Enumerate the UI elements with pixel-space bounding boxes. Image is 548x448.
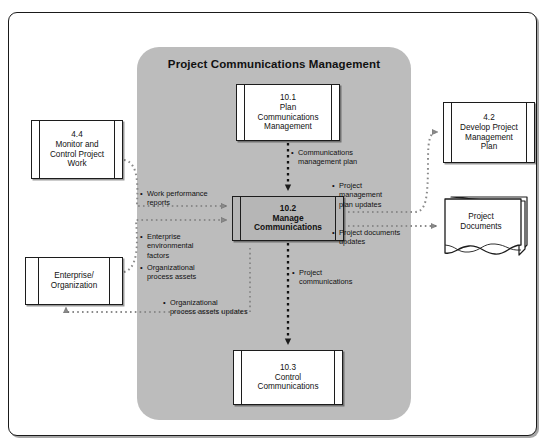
flow-eef-line2: environmental [140, 241, 193, 250]
process-10-3-line1: Control [275, 373, 301, 382]
process-10-3-label: 10.3 Control Communications [249, 363, 328, 392]
box-rail-left [38, 258, 39, 304]
flow-label-communications-management-plan: Communications management plan [291, 148, 357, 167]
process-4-2-line2: Management [465, 133, 513, 142]
project-documents-line2: Documents [460, 222, 501, 231]
box-rail-right [114, 121, 115, 178]
diagram-canvas: Project Communications Management [0, 0, 548, 448]
box-rail-right [109, 258, 110, 304]
process-10-2-line1: Manage [272, 213, 303, 223]
process-4-4-label: 4.4 Monitor and Control Project Work [41, 130, 113, 168]
flow-opau-line1: Organizational [163, 298, 248, 307]
enterprise-line1: Enterprise/ [54, 271, 94, 280]
process-10-1-line3: Management [264, 122, 312, 131]
process-4-4-line1: Monitor and [55, 140, 98, 149]
flow-opau-line2: process assets updates [163, 307, 248, 316]
flow-cmp-line2: management plan [291, 157, 357, 166]
box-rail-left [39, 121, 40, 178]
box-rail-left [241, 351, 242, 404]
process-4-4-line3: Work [68, 159, 87, 168]
flow-pc-line1: Project [292, 268, 352, 277]
process-4-2-line3: Plan [481, 142, 497, 151]
flow-pmpu-line1: Project [332, 181, 382, 190]
enterprise-line2: Organization [51, 281, 97, 290]
project-documents-line1: Project [468, 212, 493, 221]
flow-opa-line1: Organizational [140, 263, 196, 272]
flow-label-enterprise-environmental-factors: Enterprise environmental factors [140, 232, 193, 260]
process-10-2-label: 10.2 Manage Communications [245, 204, 331, 233]
process-10-3-line2: Communications [258, 382, 319, 391]
process-4-2-id: 4.2 [483, 113, 494, 122]
process-4-2-label: 4.2 Develop Project Management Plan [451, 113, 527, 151]
process-4-2-line1: Develop Project [460, 123, 518, 132]
process-10-1-line1: Plan [280, 103, 296, 112]
process-box-10-1[interactable]: 10.1 Plan Communications Management [236, 84, 340, 141]
project-documents-stack[interactable]: Project Documents [441, 193, 533, 261]
process-10-1-id: 10.1 [280, 93, 296, 102]
process-10-2-line2: Communications [254, 222, 322, 232]
flow-pmpu-line3: plan updates [332, 200, 382, 209]
flow-opa-line2: process assets [140, 272, 196, 281]
process-box-10-3[interactable]: 10.3 Control Communications [233, 350, 343, 405]
flow-pdu-line1: Project documents [332, 228, 400, 237]
flow-label-project-communications: Project communications [292, 268, 352, 287]
process-box-4-4[interactable]: 4.4 Monitor and Control Project Work [31, 120, 123, 179]
box-rail-left [244, 85, 245, 140]
enterprise-organization-label: Enterprise/ Organization [42, 271, 106, 290]
box-rail-right [331, 85, 332, 140]
flow-pmpu-line2: management [332, 190, 382, 199]
box-rail-left [240, 197, 241, 240]
flow-label-project-management-plan-updates: Project management plan updates [332, 181, 382, 209]
box-rail-right [334, 351, 335, 404]
process-10-2-id: 10.2 [280, 203, 296, 213]
flow-eef-line3: factors [140, 251, 193, 260]
panel-title: Project Communications Management [137, 58, 411, 70]
flow-label-project-documents-updates: Project documents updates [332, 228, 400, 247]
entity-box-enterprise-organization[interactable]: Enterprise/ Organization [25, 257, 123, 305]
process-4-4-line2: Control Project [50, 150, 104, 159]
process-4-4-id: 4.4 [71, 130, 82, 139]
process-10-3-id: 10.3 [280, 363, 296, 372]
flow-wpr-line2: reports [140, 198, 208, 207]
flow-pdu-line2: updates [332, 237, 400, 246]
flow-label-work-performance-reports: Work performance reports [140, 189, 208, 208]
flow-label-organizational-process-assets-updates: Organizational process assets updates [163, 298, 248, 317]
process-box-10-2[interactable]: 10.2 Manage Communications [232, 196, 344, 241]
flow-wpr-line1: Work performance [140, 189, 208, 198]
process-box-4-2[interactable]: 4.2 Develop Project Management Plan [443, 102, 535, 163]
flow-cmp-line1: Communications [291, 148, 357, 157]
flow-eef-line1: Enterprise [140, 232, 193, 241]
process-10-1-label: 10.1 Plan Communications Management [249, 93, 328, 131]
project-documents-label: Project Documents [441, 212, 521, 232]
process-10-1-line2: Communications [258, 113, 319, 122]
flow-label-organizational-process-assets: Organizational process assets [140, 263, 196, 282]
flow-pc-line2: communications [292, 277, 352, 286]
